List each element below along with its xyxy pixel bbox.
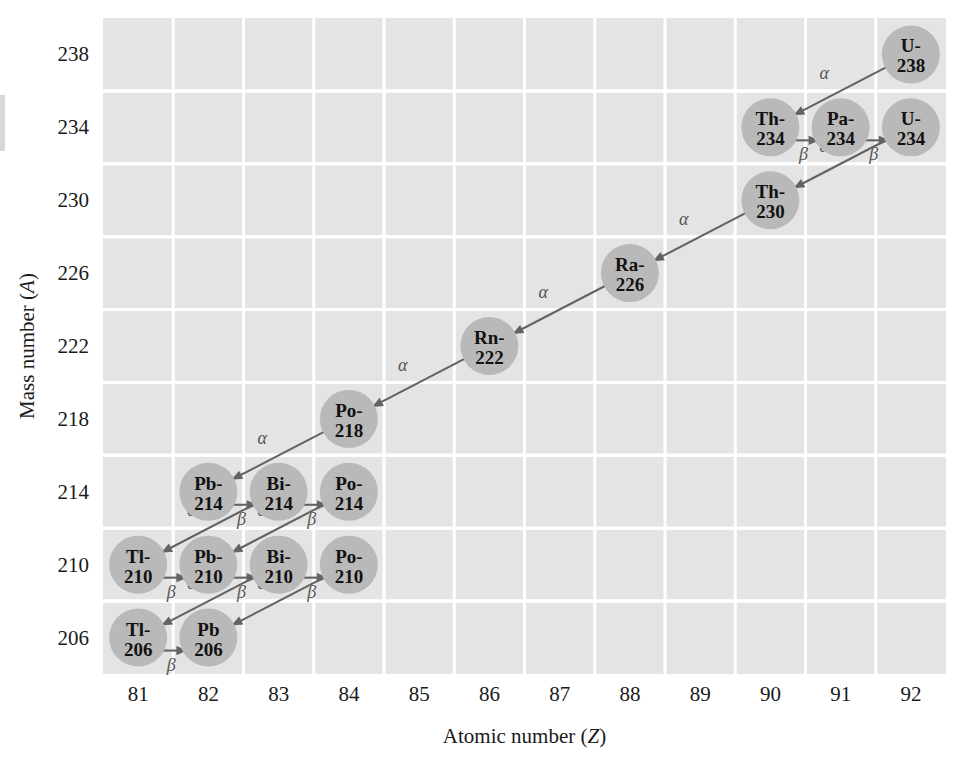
nuclide-node[interactable]: Tl-206 (109, 609, 167, 667)
nuclide-label-top: Pb- (194, 546, 223, 567)
nuclide-node[interactable]: Pa-234 (812, 98, 870, 156)
nuclide-label-bottom: 218 (335, 420, 364, 441)
decay-label-beta: β (798, 144, 808, 164)
nuclide-node[interactable]: Po-218 (320, 390, 378, 448)
nuclide-label-top: Pb (197, 619, 219, 640)
x-tick-label: 82 (198, 682, 219, 706)
nuclide-node[interactable]: Pb206 (179, 609, 237, 667)
y-tick-label: 226 (58, 261, 90, 285)
nuclide-node[interactable]: Th-230 (741, 171, 799, 229)
x-tick-label: 88 (619, 682, 640, 706)
nuclide-node[interactable]: U-238 (882, 25, 940, 83)
y-tick-label: 222 (58, 334, 90, 358)
decay-label-alpha: α (257, 428, 267, 448)
nuclide-label-top: Rn- (474, 327, 505, 348)
nuclide-label-bottom: 214 (335, 493, 364, 514)
nuclide-label-top: Ra- (615, 254, 645, 275)
x-tick-label: 83 (268, 682, 289, 706)
nuclide-label-bottom: 214 (194, 493, 223, 514)
nuclide-label-bottom: 210 (194, 566, 223, 587)
nuclide-node[interactable]: Tl-210 (109, 536, 167, 594)
decay-label-alpha: α (538, 282, 548, 302)
nuclide-label-top: Bi- (266, 473, 290, 494)
x-tick-label: 87 (549, 682, 570, 706)
nuclide-label-bottom: 206 (124, 639, 153, 660)
y-tick-label: 218 (58, 407, 90, 431)
nuclide-label-bottom: 226 (616, 274, 645, 295)
y-tick-label: 238 (58, 42, 90, 66)
nuclide-label-bottom: 222 (475, 347, 504, 368)
decay-label-alpha: α (679, 209, 689, 229)
x-tick-label: 85 (409, 682, 430, 706)
nuclide-label-top: U- (901, 35, 921, 56)
nuclide-node[interactable]: Pb-210 (179, 536, 237, 594)
y-tick-label: 234 (58, 115, 90, 139)
nuclide-node[interactable]: Po-210 (320, 536, 378, 594)
nuclide-node[interactable]: Bi-214 (250, 463, 308, 521)
nuclide-node[interactable]: Rn-222 (460, 317, 518, 375)
nuclide-label-bottom: 210 (124, 566, 153, 587)
nuclide-node[interactable]: Ra-226 (601, 244, 659, 302)
nuclide-label-top: Tl- (126, 619, 150, 640)
decay-label-alpha: α (819, 63, 829, 83)
nuclide-label-top: Po- (335, 473, 362, 494)
x-tick-label: 86 (479, 682, 500, 706)
y-axis-title: Mass number (A) (15, 273, 39, 419)
nuclide-label-top: Po- (335, 546, 362, 567)
nuclide-label-bottom: 210 (335, 566, 364, 587)
y-tick-label: 230 (58, 188, 90, 212)
nuclide-label-top: U- (901, 108, 921, 129)
nuclide-label-bottom: 214 (264, 493, 293, 514)
nuclide-label-top: Po- (335, 400, 362, 421)
nuclide-label-top: Pa- (827, 108, 854, 129)
y-tick-label: 206 (58, 626, 90, 650)
decay-label-beta: β (166, 655, 176, 675)
nuclide-label-bottom: 234 (826, 128, 855, 149)
nuclide-node[interactable]: Po-214 (320, 463, 378, 521)
nuclide-label-bottom: 230 (756, 201, 785, 222)
nuclide-node[interactable]: Pb-214 (179, 463, 237, 521)
decay-series-figure: αββαααααββααβββααβ U-238Th-234Pa-234U-23… (0, 0, 959, 757)
x-tick-label: 91 (830, 682, 851, 706)
nuclide-label-top: Pb- (194, 473, 223, 494)
nuclide-label-bottom: 210 (264, 566, 293, 587)
decay-chart: αββαααααββααβββααβ U-238Th-234Pa-234U-23… (0, 0, 959, 757)
y-tick-label: 214 (58, 480, 90, 504)
nuclide-node[interactable]: Th-234 (741, 98, 799, 156)
decay-label-beta: β (166, 582, 176, 602)
nuclide-label-bottom: 234 (756, 128, 785, 149)
nuclide-label-top: Bi- (266, 546, 290, 567)
x-tick-label: 84 (338, 682, 360, 706)
nuclide-label-top: Th- (756, 108, 786, 129)
nuclide-node[interactable]: Bi-210 (250, 536, 308, 594)
nuclide-node[interactable]: U-234 (882, 98, 940, 156)
nuclide-label-bottom: 238 (897, 55, 926, 76)
x-tick-label: 89 (690, 682, 711, 706)
x-axis-title: Atomic number (Z) (443, 724, 606, 748)
nuclide-label-top: Th- (756, 181, 786, 202)
x-tick-label: 90 (760, 682, 781, 706)
x-tick-label: 81 (128, 682, 149, 706)
decay-label-alpha: α (398, 355, 408, 375)
page-edge-artifact (0, 95, 5, 151)
y-tick-label: 210 (58, 553, 90, 577)
nuclide-label-bottom: 234 (897, 128, 926, 149)
nuclide-label-top: Tl- (126, 546, 150, 567)
x-tick-label: 92 (900, 682, 921, 706)
nuclide-label-bottom: 206 (194, 639, 223, 660)
